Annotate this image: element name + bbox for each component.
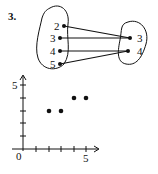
- origin-label: 0: [16, 150, 22, 162]
- range-4: 4: [137, 45, 143, 57]
- scatter-points: [47, 96, 89, 114]
- axes: [12, 75, 99, 152]
- domain-2: 2: [54, 20, 60, 32]
- figure: 3. 2 3 4 5 3 4 5 0 5: [0, 0, 158, 174]
- range-oval: [118, 21, 147, 64]
- domain-3: 3: [50, 32, 56, 44]
- y-tick-5: 5: [12, 79, 18, 91]
- domain-5: 5: [50, 58, 56, 70]
- problem-number: 3.: [8, 10, 17, 22]
- domain-4: 4: [50, 45, 56, 57]
- range-3: 3: [137, 32, 143, 44]
- x-tick-5: 5: [83, 152, 89, 164]
